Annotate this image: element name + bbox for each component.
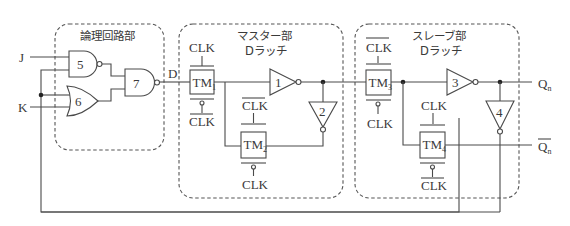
wire-g5-to-g7 [102, 64, 125, 76]
input-j-label: J [19, 50, 24, 65]
signal-d-label: D [168, 66, 177, 81]
master-block-title-line1: マスター部 [237, 29, 292, 43]
tm1-top-clk-label: CLK [189, 40, 216, 55]
inverter-1-bubble [296, 80, 301, 85]
slave-block-title-line1: スレーブ部 [412, 29, 466, 43]
tm2-top-clk-label: CLK [242, 98, 269, 113]
tm1-bottom-inversion-bubble [200, 101, 204, 105]
jk-flipflop-circuit-diagram: 論理回路部 マスター部 Dラッチ スレーブ部 Dラッチ J K 5 6 7 D … [0, 0, 570, 226]
wire-g6-to-g7 [98, 89, 125, 101]
wire-node-to-tm4 [403, 82, 420, 145]
gate-6-label: 6 [75, 94, 82, 109]
tm2-bottom-clk-label: CLK [242, 177, 269, 192]
nand-gate-7 [125, 69, 155, 96]
input-k-label: K [18, 100, 28, 115]
wire-inv2-to-tm2 [266, 132, 323, 146]
wire-node-to-tm2 [225, 82, 241, 146]
output-q-label: Qn [538, 76, 551, 93]
tm3-bottom-inversion-bubble [376, 102, 380, 106]
tm4-top-clk-label: CLK [421, 98, 448, 113]
inverter-1-label: 1 [275, 75, 282, 90]
tm3-top-clk-label: CLK [366, 40, 393, 55]
slave-block-title-line2: Dラッチ [420, 44, 462, 58]
or-gate-6 [67, 86, 98, 116]
inverter-2-bubble [321, 127, 326, 132]
tm4-bottom-inversion-bubble [431, 165, 435, 169]
tm3-bottom-clk-label: CLK [367, 116, 394, 131]
inverter-2-label: 2 [319, 104, 326, 119]
inverter-3 [447, 69, 473, 95]
output-qbar-label: Qn [538, 139, 551, 156]
tm4-bottom-clk-label: CLK [421, 178, 448, 193]
logic-block-title: 論理回路部 [80, 29, 135, 43]
inverter-3-bubble [473, 80, 478, 85]
inverter-4-label: 4 [496, 105, 503, 120]
gate-7-inversion-bubble [155, 80, 160, 85]
gate-5-label: 5 [77, 57, 84, 72]
inverter-4-bubble [498, 129, 503, 134]
gate-5-inversion-bubble [97, 62, 102, 67]
master-block-title-line2: Dラッチ [245, 44, 287, 58]
junction-dot-feedback [39, 93, 44, 98]
tm1-bottom-clk-label: CLK [189, 114, 216, 129]
inverter-1 [270, 69, 296, 95]
tm2-bottom-inversion-bubble [252, 165, 256, 169]
inverter-3-label: 3 [452, 75, 459, 90]
gate-7-label: 7 [133, 76, 140, 91]
